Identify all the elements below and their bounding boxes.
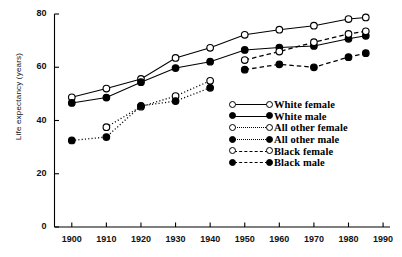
data-point-marker xyxy=(172,65,179,72)
y-axis-tick-label: 40 xyxy=(25,115,47,125)
data-point-marker xyxy=(207,84,214,91)
data-point-marker xyxy=(103,85,110,92)
data-point-marker xyxy=(207,45,214,52)
data-point-marker xyxy=(172,98,179,105)
data-point-marker xyxy=(241,66,248,73)
legend-symbol-3 xyxy=(228,122,274,133)
legend-label: All other female xyxy=(274,122,348,133)
legend-item: Black female xyxy=(228,145,348,157)
chart-page: Life expectancy (years) 020406080 190019… xyxy=(0,0,402,257)
data-point-marker xyxy=(311,22,318,29)
data-point-marker xyxy=(241,57,248,64)
legend-label: All other male xyxy=(274,134,339,145)
y-axis-title: Life expectancy (years) xyxy=(14,27,23,167)
legend-item: All other male xyxy=(228,134,348,146)
data-point-marker xyxy=(362,50,369,57)
data-point-marker xyxy=(276,61,283,68)
data-point-marker xyxy=(103,94,110,101)
y-axis-tick-label: 0 xyxy=(25,221,47,231)
chart-legend: White femaleWhite maleAll other femaleAl… xyxy=(228,99,348,169)
data-point-marker xyxy=(68,100,75,107)
legend-label: White male xyxy=(274,111,327,122)
series-line xyxy=(106,81,210,127)
data-point-marker xyxy=(345,31,352,38)
y-axis-tick-label: 60 xyxy=(25,61,47,71)
legend-label: Black female xyxy=(274,146,333,157)
data-point-marker xyxy=(138,79,145,86)
y-axis-tick-label: 20 xyxy=(25,168,47,178)
data-point-marker xyxy=(345,54,352,61)
data-point-marker xyxy=(138,103,145,110)
series-line xyxy=(72,17,366,97)
data-point-marker xyxy=(207,58,214,65)
data-point-marker xyxy=(311,39,318,46)
legend-symbol-4 xyxy=(228,134,274,145)
data-point-marker xyxy=(103,124,110,131)
data-point-marker xyxy=(276,26,283,33)
legend-symbol-5 xyxy=(228,146,274,157)
legend-label: White female xyxy=(274,99,335,110)
data-point-marker xyxy=(68,137,75,144)
legend-symbol-6 xyxy=(228,157,274,168)
data-point-marker xyxy=(241,31,248,38)
data-point-marker xyxy=(362,14,369,21)
data-point-marker xyxy=(276,48,283,55)
series-line xyxy=(72,88,210,141)
legend-item: White female xyxy=(228,99,348,111)
data-point-marker xyxy=(207,78,214,85)
legend-symbol-2 xyxy=(228,111,274,122)
legend-label: Black male xyxy=(274,157,325,168)
y-axis-tick-label: 80 xyxy=(25,8,47,18)
legend-item: All other female xyxy=(228,122,348,134)
x-axis-tick-label: 1990 xyxy=(363,234,402,244)
data-point-marker xyxy=(103,134,110,141)
legend-symbol-1 xyxy=(228,99,274,110)
legend-item: Black male xyxy=(228,157,348,169)
data-point-marker xyxy=(311,64,318,71)
legend-item: White male xyxy=(228,111,348,123)
data-point-marker xyxy=(362,28,369,35)
series-line xyxy=(72,36,366,103)
data-point-marker xyxy=(241,47,248,54)
data-point-marker xyxy=(172,55,179,62)
data-point-marker xyxy=(345,16,352,23)
